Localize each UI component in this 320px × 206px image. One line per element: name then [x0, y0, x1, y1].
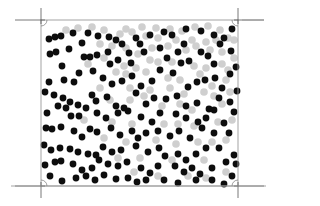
gray-particle	[208, 138, 216, 146]
gray-particle	[108, 42, 116, 50]
gray-particle	[218, 60, 226, 68]
black-particle	[93, 98, 100, 105]
black-particle	[231, 152, 238, 159]
gray-particle	[226, 88, 234, 96]
black-particle	[117, 132, 124, 139]
black-particle	[145, 149, 152, 156]
black-particle	[70, 30, 77, 37]
black-particle	[68, 113, 75, 120]
gray-particle	[88, 23, 96, 31]
black-particle	[221, 120, 228, 127]
black-particle	[198, 28, 205, 35]
black-particle	[57, 145, 64, 152]
black-particle	[155, 163, 162, 170]
gray-particle	[208, 82, 216, 90]
gray-particle	[160, 120, 168, 128]
gray-particle	[200, 156, 208, 164]
black-particle	[194, 100, 201, 107]
black-particle	[100, 144, 107, 151]
gray-particle	[206, 46, 214, 54]
black-particle	[178, 60, 185, 67]
black-particle	[76, 70, 83, 77]
gray-particle	[148, 44, 156, 52]
black-particle	[49, 126, 56, 133]
black-particle	[185, 84, 192, 91]
black-particle	[109, 81, 116, 88]
black-particle	[83, 173, 90, 180]
black-particle	[209, 177, 216, 184]
black-particle	[108, 125, 115, 132]
black-particle	[79, 40, 86, 47]
black-particle	[231, 109, 238, 116]
gray-particle	[126, 96, 134, 104]
black-particle	[172, 163, 179, 170]
black-particle	[151, 95, 158, 102]
black-particle	[89, 92, 96, 99]
black-particle	[75, 149, 82, 156]
black-particle	[47, 51, 54, 58]
black-particle	[183, 157, 190, 164]
corner-arc-icon	[41, 20, 47, 26]
black-particle	[81, 54, 88, 61]
black-particle	[52, 34, 59, 41]
black-particle	[44, 110, 51, 117]
black-particle	[85, 151, 92, 158]
black-particle	[147, 32, 154, 39]
gray-particle	[108, 118, 116, 126]
black-particle	[161, 29, 168, 36]
gray-particle	[154, 172, 162, 180]
black-particle	[221, 35, 228, 42]
gray-particle	[152, 24, 160, 32]
black-particle	[42, 162, 49, 169]
black-particle	[211, 61, 218, 68]
black-particle	[113, 176, 120, 183]
corner-arc-icon	[232, 20, 238, 26]
black-particle	[58, 124, 65, 131]
gray-particle	[120, 62, 128, 70]
black-particle	[66, 46, 73, 53]
gray-particle	[222, 168, 230, 176]
gray-particle	[200, 88, 208, 96]
black-particle	[75, 102, 82, 109]
gray-particle	[112, 68, 120, 76]
black-particle	[46, 36, 53, 43]
black-particle	[175, 180, 182, 187]
black-particle	[42, 89, 49, 96]
black-particle	[59, 178, 66, 185]
crop-mark-top-right	[232, 8, 264, 26]
gray-particle	[222, 136, 230, 144]
gray-particle	[176, 76, 184, 84]
black-particle	[186, 58, 193, 65]
black-particle	[211, 107, 218, 114]
gray-particles	[62, 22, 238, 182]
gray-particle	[142, 68, 150, 76]
black-particle	[183, 115, 190, 122]
black-particle	[216, 145, 223, 152]
black-particle	[129, 128, 136, 135]
black-particle	[67, 146, 74, 153]
gray-particle	[146, 86, 154, 94]
black-particle	[85, 30, 92, 37]
black-particle	[115, 163, 122, 170]
gray-particle	[166, 84, 174, 92]
gray-particle	[62, 26, 70, 34]
gray-particle	[136, 154, 144, 162]
black-particle	[94, 52, 101, 59]
corner-arc-icon	[41, 180, 47, 186]
black-particle	[189, 165, 196, 172]
black-particle	[126, 50, 133, 57]
gray-particle	[180, 90, 188, 98]
gray-particle	[100, 26, 108, 34]
black-particle	[187, 135, 194, 142]
black-particle	[163, 96, 170, 103]
gray-particle	[174, 120, 182, 128]
black-particle	[157, 67, 164, 74]
black-particle	[58, 33, 65, 40]
black-particle	[94, 129, 101, 136]
gray-particle	[172, 140, 180, 148]
black-particle	[109, 149, 116, 156]
black-particle	[199, 125, 206, 132]
black-particle	[198, 49, 205, 56]
black-particle	[157, 45, 164, 52]
black-particle	[229, 173, 236, 180]
